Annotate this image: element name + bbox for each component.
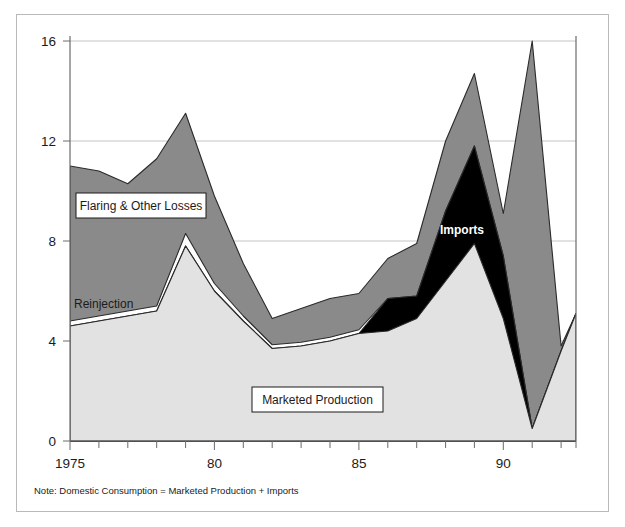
y-tick-label-4: 4 <box>48 334 56 349</box>
annotation-reinjection-label: Reinjection <box>74 297 133 311</box>
x-tick-label-1975: 1975 <box>55 456 85 471</box>
x-ticks <box>70 441 576 450</box>
figure-note: Note: Domestic Consumption = Marketed Pr… <box>34 485 299 496</box>
x-tick-label-1990: 90 <box>496 456 511 471</box>
annotation-marketed-label: Marketed Production <box>262 393 373 407</box>
area-chart: 16 12 8 4 0 1975 80 <box>0 0 625 527</box>
x-tick-label-1980: 80 <box>207 456 222 471</box>
y-tick-label-12: 12 <box>41 134 56 149</box>
figure-container: 16 12 8 4 0 1975 80 <box>0 0 625 527</box>
annotation-flaring: Flaring & Other Losses <box>76 193 206 218</box>
y-ticks <box>63 41 70 441</box>
y-tick-label-8: 8 <box>48 234 56 249</box>
annotation-flaring-label: Flaring & Other Losses <box>80 199 203 213</box>
annotation-imports-label: Imports <box>440 223 484 237</box>
x-tick-label-1985: 85 <box>351 456 366 471</box>
y-tick-label-0: 0 <box>48 434 56 449</box>
annotation-marketed: Marketed Production <box>252 387 383 412</box>
y-tick-label-16: 16 <box>41 34 56 49</box>
